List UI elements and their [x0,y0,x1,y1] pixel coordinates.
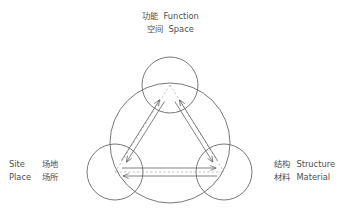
label-site-place-line2: Place场所 [9,171,58,184]
label-space-cn: 空间 [147,23,163,36]
label-structure-material: 结构Structure 材料Material [274,158,335,184]
label-site-cn: 场地 [42,158,58,171]
diagram-canvas: function-space (two parallel arrows) -->… [0,0,341,216]
label-place-cn: 场所 [42,171,58,184]
label-function-space-line2: 空间Space [0,23,341,36]
label-function-cn: 功能 [142,10,158,23]
label-site-place: Site场地 Place场所 [9,158,58,184]
label-function-space: 功能Function 空间Space [0,10,341,36]
enclosing-circle [110,83,230,203]
dashed-triangle [115,85,224,172]
label-structure-material-line2: 材料Material [274,171,335,184]
label-place-en: Place [9,171,35,184]
label-structure-cn: 结构 [274,158,290,171]
label-function-en: Function [164,10,199,23]
label-space-en: Space [169,23,194,36]
label-structure-material-line1: 结构Structure [274,158,335,171]
label-function-space-line1: 功能Function [0,10,341,23]
label-site-en: Site [9,158,35,171]
relation-arrows-structure-to-function [175,100,218,162]
label-material-en: Material [296,171,330,184]
label-structure-en: Structure [296,158,335,171]
relation-arrows-site-to-function [122,100,165,162]
label-site-place-line1: Site场地 [9,158,58,171]
label-material-cn: 材料 [274,171,290,184]
